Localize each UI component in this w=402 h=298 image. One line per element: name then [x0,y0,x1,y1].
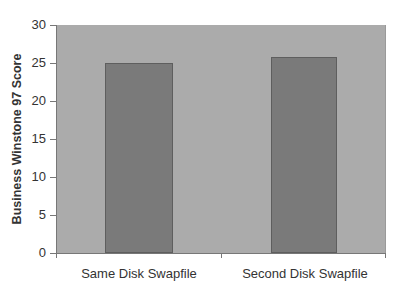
y-tick [50,25,56,26]
y-tick-label: 0 [20,246,46,260]
y-axis-title: Business Winstone 97 Score [10,44,24,234]
bar-second-disk-swapfile [271,57,337,253]
x-tick [56,253,57,258]
y-tick [50,139,56,140]
y-axis [56,25,57,254]
bar-same-disk-swapfile [105,63,173,253]
y-tick [50,63,56,64]
x-category-label: Second Disk Swapfile [230,266,380,281]
x-tick [221,253,222,258]
x-category-label: Same Disk Swapfile [68,266,210,281]
y-tick [50,177,56,178]
y-tick [50,101,56,102]
y-tick [50,215,56,216]
y-tick-label: 30 [20,18,46,32]
x-tick [385,253,386,258]
